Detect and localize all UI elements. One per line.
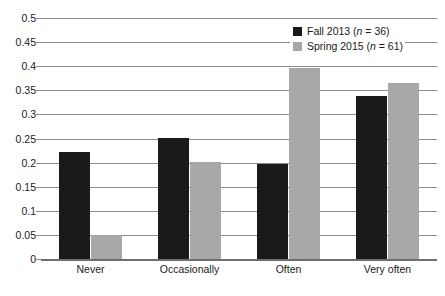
bar-group: [59, 18, 122, 259]
y-axis-tick-label: 0.4: [21, 61, 36, 72]
y-axis-tick-label: 0.45: [16, 37, 36, 48]
y-axis-tick-label: 0.2: [21, 158, 36, 169]
x-axis-category-label: Very often: [338, 264, 437, 275]
y-axis: 0.50.450.40.350.30.250.20.150.10.050: [0, 0, 36, 296]
axis-baseline: [41, 259, 437, 261]
y-axis-tick-label: 0.3: [21, 109, 36, 120]
y-axis-tick-label: 0.5: [21, 13, 36, 24]
legend-swatch: [293, 27, 302, 36]
legend-label: Fall 2013 (n = 36): [307, 26, 390, 37]
x-axis-category-label: Never: [41, 264, 140, 275]
y-axis-tick-label: 0.25: [16, 134, 36, 145]
bar: [257, 164, 288, 259]
y-axis-tick-label: 0.1: [21, 206, 36, 217]
bar: [91, 235, 122, 259]
bar: [388, 83, 419, 259]
legend-item: Fall 2013 (n = 36): [293, 24, 403, 39]
x-axis-category-label: Often: [239, 264, 338, 275]
x-axis: NeverOccasionallyOftenVery often: [41, 264, 437, 286]
bar: [190, 162, 221, 259]
x-axis-category-label: Occasionally: [140, 264, 239, 275]
y-axis-tick-label: 0.05: [16, 230, 36, 241]
bar-chart: 0.50.450.40.350.30.250.20.150.10.050 Nev…: [0, 0, 445, 296]
legend-swatch: [293, 42, 302, 51]
bar: [158, 138, 189, 259]
y-axis-tick-label: 0.15: [16, 182, 36, 193]
y-axis-tick-label: 0.35: [16, 85, 36, 96]
legend: Fall 2013 (n = 36)Spring 2015 (n = 61): [290, 21, 405, 57]
bar: [289, 68, 320, 259]
bar: [59, 152, 90, 259]
legend-label: Spring 2015 (n = 61): [307, 41, 403, 52]
legend-item: Spring 2015 (n = 61): [293, 39, 403, 54]
bar: [356, 96, 387, 259]
bar-group: [158, 18, 221, 259]
